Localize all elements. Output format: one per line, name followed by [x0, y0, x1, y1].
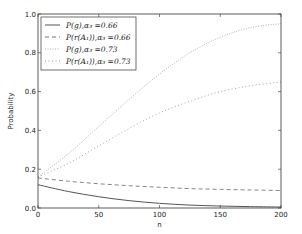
x-tick-label: 0 [36, 211, 40, 219]
x-tick-label: 200 [274, 211, 287, 219]
series-line-0 [38, 185, 281, 207]
legend: P(g),α₃ =0.66P(r(A₁)),α₃ =0.66P(g),α₃ =0… [41, 17, 136, 70]
y-tick-label: 0.4 [25, 127, 37, 135]
legend-label: P(g),α₃ =0.66 [65, 21, 118, 30]
y-tick-label: 0.2 [25, 166, 36, 174]
y-tick-label: 0.8 [25, 49, 36, 57]
legend-label: P(r(A₁)),α₃ =0.73 [65, 57, 131, 66]
legend-label: P(g),α₃ =0.73 [65, 45, 118, 54]
series-line-1 [38, 178, 281, 191]
y-tick-label: 0.6 [25, 88, 37, 96]
x-axis-label: n [157, 221, 161, 229]
series-line-3 [38, 82, 281, 177]
line-chart: 050100150200 0.00.20.40.60.81.0 n Probab… [0, 0, 302, 234]
y-tick-label: 0.0 [25, 205, 36, 213]
x-tick-label: 50 [94, 211, 103, 219]
x-tick-label: 100 [153, 211, 166, 219]
legend-label: P(r(A₁)),α₃ =0.66 [65, 33, 131, 42]
x-tick-label: 150 [214, 211, 227, 219]
y-axis-label: Probability [7, 92, 15, 129]
y-tick-label: 1.0 [25, 11, 36, 19]
